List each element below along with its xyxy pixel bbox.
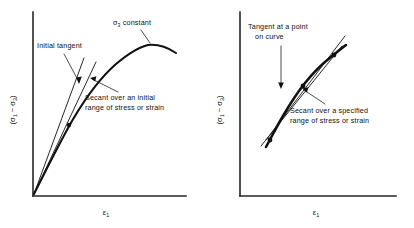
left-initial-tangent-label: Initial tangent (37, 41, 82, 50)
left-secant-label-line2: range of stress or strain (85, 103, 164, 112)
left-x-axis-label: ε1 (103, 208, 109, 218)
left-secant-label-line1: Secant over an initial (85, 93, 155, 102)
right-tangent-label-line2: on curve (255, 32, 284, 41)
left-panel: (σ1 − σ3) ε1 σ3 constant Initial tangent… (8, 12, 186, 218)
right-panel: (σ1 − σ3) ε1 Tangent at a point on curve… (215, 12, 396, 218)
left-confining-pressure-label: σ3 constant (113, 18, 151, 28)
svg-text:(σ1 − σ3): (σ1 − σ3) (8, 95, 18, 125)
right-range-end-marker (332, 53, 337, 58)
stress-strain-modulus-figure: (σ1 − σ3) ε1 σ3 constant Initial tangent… (0, 0, 414, 228)
right-range-start-marker (268, 138, 273, 143)
right-tangent-arrowhead (278, 82, 284, 89)
right-secant-label-line2: range of stress or strain (290, 116, 369, 125)
left-y-axis-label: (σ1 − σ3) (8, 95, 18, 125)
left-initial-tangent-arrowhead (76, 76, 82, 84)
left-confining-leader (141, 30, 150, 43)
right-y-axis-label: (σ1 − σ3) (215, 95, 225, 125)
right-stress-strain-curve-segment (266, 45, 346, 147)
right-x-axis-label: ε1 (313, 208, 319, 218)
left-secant-point-marker (67, 123, 71, 127)
svg-text:(σ1 − σ3): (σ1 − σ3) (215, 95, 225, 125)
left-initial-tangent-line (34, 58, 84, 194)
right-secant-leader (304, 90, 325, 104)
left-stress-strain-curve (34, 45, 176, 194)
right-tangent-label-line1: Tangent at a point (248, 22, 308, 31)
figure-canvas: (σ1 − σ3) ε1 σ3 constant Initial tangent… (0, 0, 414, 228)
right-secant-label-line1: Secant over a specified (290, 106, 368, 115)
right-tangent-point-marker (301, 84, 306, 89)
